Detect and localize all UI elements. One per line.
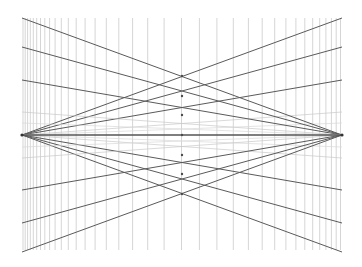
intersection-node — [181, 154, 183, 156]
intersection-node — [181, 134, 183, 136]
perspective-grid-canvas — [0, 0, 362, 267]
intersection-node — [181, 193, 183, 195]
left-vanishing-point — [20, 133, 23, 136]
intersection-node — [181, 114, 183, 116]
perspective-grid-figure — [0, 0, 362, 267]
intersection-node — [181, 75, 183, 77]
right-vanishing-point — [340, 133, 343, 136]
intersection-node — [181, 95, 183, 97]
intersection-node — [181, 173, 183, 175]
